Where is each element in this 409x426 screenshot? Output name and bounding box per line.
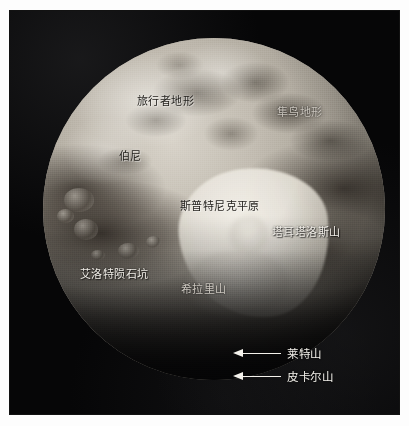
page-root: 旅行者地形 隼鸟地形 伯尼 斯普特尼克平原 塔耳塔洛斯山 艾洛特陨石坑 希拉里山… — [0, 0, 409, 426]
pluto-disc-container — [43, 38, 385, 380]
pluto-disc — [43, 38, 385, 380]
pluto-photo-plate: 旅行者地形 隼鸟地形 伯尼 斯普特尼克平原 塔耳塔洛斯山 艾洛特陨石坑 希拉里山… — [10, 11, 399, 414]
image-grain-overlay — [43, 38, 385, 380]
